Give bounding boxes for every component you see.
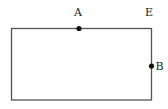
rectangle: [12, 29, 152, 101]
label-b: B: [155, 60, 163, 73]
diagram-canvas: A E B: [0, 0, 168, 109]
label-e: E: [145, 6, 153, 19]
point-b-dot: [149, 63, 154, 68]
label-a: A: [73, 6, 83, 19]
point-a-dot: [76, 26, 81, 31]
